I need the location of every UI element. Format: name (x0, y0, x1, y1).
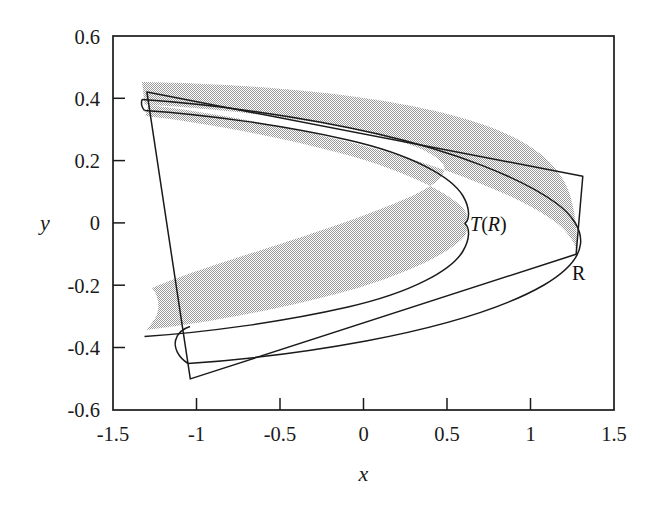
x-tick-label: 0 (358, 423, 368, 445)
y-axis-title: y (38, 210, 50, 235)
x-tick-label: 1 (525, 423, 535, 445)
x-tick-label: -1 (188, 423, 205, 445)
x-tick-label: 0.5 (434, 423, 460, 445)
y-tick-label: -0.6 (68, 399, 100, 421)
y-tick-label: 0.6 (74, 26, 100, 48)
y-tick-label: 0 (90, 212, 100, 234)
source-region-label: R (572, 262, 586, 284)
x-axis-title: x (358, 461, 369, 486)
x-tick-label: -0.5 (264, 423, 296, 445)
y-tick-label: 0.4 (74, 88, 100, 110)
y-tick-label: -0.4 (68, 337, 100, 359)
transformed-region-label-r: R (487, 213, 500, 235)
x-tick-label: -1.5 (97, 423, 129, 445)
plot-figure: -1.5 -1 -0.5 0 0.5 1 1.5 0.6 0.4 0.2 0 -… (0, 0, 655, 505)
transformed-region-label: T(R) (470, 213, 507, 236)
x-tick-label: 1.5 (601, 423, 627, 445)
figure-container: -1.5 -1 -0.5 0 0.5 1 1.5 0.6 0.4 0.2 0 -… (0, 0, 655, 505)
y-tick-label: 0.2 (74, 150, 100, 172)
transformed-region-label-close-paren: ) (500, 213, 507, 236)
y-tick-label: -0.2 (68, 275, 100, 297)
